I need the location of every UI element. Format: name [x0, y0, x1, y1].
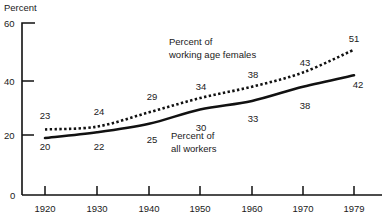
y-tick-label-60: 60	[4, 18, 15, 29]
legend-label-workers-line2: all workers	[171, 143, 217, 154]
x-tick-label-1920: 1920	[34, 203, 55, 214]
chart-figure: Percent 60 40 20 0 1920 1930 1940 1950 1…	[0, 0, 388, 224]
point-label-females-1979: 51	[349, 33, 360, 44]
point-label-workers-1979: 42	[353, 79, 364, 90]
x-tick-label-1940: 1940	[138, 203, 159, 214]
y-tick-label-0: 0	[10, 190, 15, 201]
cropped-header-text	[196, 0, 336, 8]
point-label-workers-1940: 25	[147, 134, 158, 145]
point-label-females-1970: 43	[300, 57, 311, 68]
y-axis-unit-label: Percent	[4, 2, 37, 13]
point-label-workers-1920: 20	[40, 141, 51, 152]
point-label-workers-1970: 38	[300, 100, 311, 111]
point-label-females-1920: 23	[40, 110, 51, 121]
point-label-females-1930: 24	[94, 106, 105, 117]
legend-label-females-line2: working age females	[168, 49, 256, 60]
point-label-workers-1930: 22	[94, 141, 105, 152]
legend-label-workers-line1: Percent of	[171, 130, 215, 141]
legend-label-females-line1: Percent of	[169, 36, 213, 47]
x-tick-label-1950: 1950	[189, 203, 210, 214]
y-axis-line	[22, 23, 35, 195]
y-tick-label-40: 40	[4, 76, 15, 87]
point-label-females-1960: 38	[248, 69, 259, 80]
x-tick-label-1970: 1970	[292, 203, 313, 214]
x-tick-label-1960: 1960	[241, 203, 262, 214]
line-chart-svg: Percent 60 40 20 0 1920 1930 1940 1950 1…	[0, 0, 388, 224]
point-label-females-1940: 29	[147, 91, 158, 102]
point-label-workers-1960: 33	[248, 113, 259, 124]
y-tick-label-20: 20	[4, 130, 15, 141]
x-tick-label-1930: 1930	[86, 203, 107, 214]
point-label-females-1950: 34	[196, 81, 207, 92]
x-tick-label-1979: 1979	[343, 203, 364, 214]
